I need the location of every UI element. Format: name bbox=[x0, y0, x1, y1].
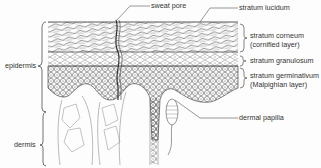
stratum-corneum-region bbox=[48, 22, 238, 52]
label-cornified-layer: (cornified layer) bbox=[250, 41, 300, 49]
label-dermis: dermis bbox=[14, 141, 36, 149]
label-malpighian-layer: (Malpighian layer) bbox=[250, 81, 307, 89]
label-dermal-papilla: dermal papilla bbox=[239, 114, 284, 122]
label-stratum-lucidum: stratum lucidum bbox=[239, 4, 290, 12]
label-epidermis: epidermis bbox=[5, 62, 36, 70]
label-sweat-pore: sweat pore bbox=[151, 2, 186, 10]
label-stratum-granulosum: stratum granulosum bbox=[250, 57, 314, 65]
stratum-granulosum-region bbox=[48, 52, 238, 66]
dermis-papilla-lines bbox=[58, 92, 126, 165]
stratum-germinativum-region bbox=[48, 66, 238, 140]
skin-diagram: sweat pore stratum lucidum stratum corne… bbox=[0, 0, 321, 168]
label-stratum-germinativum: stratum germinativum bbox=[250, 72, 319, 80]
label-stratum-corneum: stratum corneum bbox=[250, 32, 304, 40]
